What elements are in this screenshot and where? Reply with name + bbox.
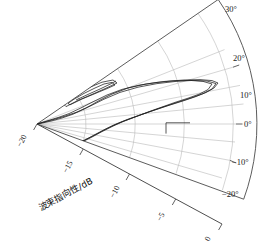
angular-label-10: 10° <box>240 90 252 100</box>
radial-label-neg20: −20 <box>15 133 29 148</box>
angular-label-neg10: −10° <box>232 157 249 167</box>
radial-axis-title: 波束指向性/dB <box>36 175 94 213</box>
angular-label-0: 0° <box>244 119 252 129</box>
radial-label-neg15: −15 <box>61 159 75 174</box>
beam-pattern-figure: 30° 20° 10° 0° −10° −20° −20 −15 −10 −5 … <box>0 0 265 246</box>
radial-label-neg10: −10 <box>108 184 122 199</box>
angular-label-20: 20° <box>233 53 245 63</box>
radial-label-neg5: −5 <box>155 211 167 223</box>
radial-label-0: 0 <box>203 235 213 243</box>
angular-label-30: 30° <box>225 4 237 14</box>
radial-axis-title-text: 波束指向性/dB <box>36 175 94 213</box>
angular-label-neg20: −20° <box>222 189 239 199</box>
